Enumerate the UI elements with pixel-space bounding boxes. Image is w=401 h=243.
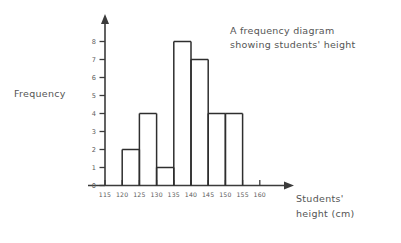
x-axis-title-line-2: height (cm) [296, 206, 355, 221]
x-tick-label: 155 [236, 191, 248, 198]
y-tick-label: 6 [92, 74, 96, 82]
x-tick-label: 145 [202, 191, 214, 198]
chart-canvas: A frequency diagram showing students' he… [0, 0, 401, 243]
chart-title-line-1: A frequency diagram [230, 24, 355, 38]
bar [122, 150, 139, 186]
x-tick-label: 120 [116, 191, 128, 198]
x-tick-label: 125 [133, 191, 145, 198]
y-tick-label: 8 [92, 38, 96, 46]
bar [191, 60, 208, 186]
x-axis-title: Students' height (cm) [296, 191, 355, 221]
y-tick-label: 2 [92, 146, 96, 154]
chart-title-line-2: showing students' height [230, 38, 355, 52]
x-axis-ticks [105, 180, 260, 186]
x-axis-tick-labels: 115120125130135140145150155160 [99, 191, 266, 198]
x-tick-label: 140 [185, 191, 197, 198]
y-axis-arrowhead [101, 14, 109, 24]
y-tick-label: 5 [92, 92, 96, 100]
bar [139, 114, 156, 186]
bars [122, 42, 242, 186]
y-tick-label: 1 [92, 164, 96, 172]
y-tick-label: 7 [92, 56, 96, 64]
y-axis-tick-labels: 012345678 [92, 38, 96, 190]
x-tick-label: 150 [219, 191, 231, 198]
x-tick-label: 135 [168, 191, 180, 198]
y-tick-label: 3 [92, 128, 96, 136]
y-axis-title: Frequency [14, 88, 66, 99]
bar [157, 168, 174, 186]
y-axis [101, 14, 109, 186]
chart-title: A frequency diagram showing students' he… [230, 24, 355, 52]
bar [174, 42, 191, 186]
x-tick-label: 130 [150, 191, 162, 198]
y-axis-ticks [100, 42, 106, 186]
y-tick-label: 0 [92, 182, 96, 190]
x-axis-title-line-1: Students' [296, 191, 355, 206]
x-tick-label: 160 [254, 191, 266, 198]
x-axis-arrowhead [284, 182, 294, 190]
bar [208, 114, 225, 186]
y-tick-label: 4 [92, 110, 96, 118]
bar [225, 114, 242, 186]
x-tick-label: 115 [99, 191, 111, 198]
